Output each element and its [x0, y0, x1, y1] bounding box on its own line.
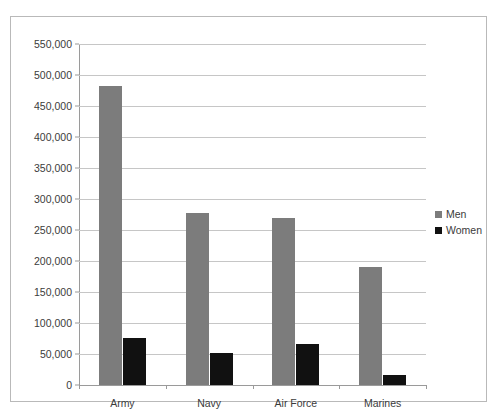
x-axis-label-navy: Navy: [197, 397, 221, 409]
y-axis-tick-label: 300,000: [34, 193, 72, 205]
legend-item-women[interactable]: Women: [435, 222, 482, 238]
x-axis-tick-mark: [166, 385, 167, 389]
y-axis-tick-label: 400,000: [34, 131, 72, 143]
y-axis-tick-label: 50,000: [40, 348, 72, 360]
y-axis-tick-label: 500,000: [34, 69, 72, 81]
x-axis-label-air-force: Air Force: [275, 397, 318, 409]
bar-army-men: [99, 86, 122, 385]
bar-group: [339, 44, 426, 385]
y-axis-tick-label: 150,000: [34, 286, 72, 298]
y-axis-tick-label: 550,000: [34, 38, 72, 50]
bar-group: [253, 44, 340, 385]
y-axis-tick-label: 250,000: [34, 224, 72, 236]
bar-navy-women: [210, 353, 233, 385]
legend-label: Women: [446, 224, 482, 236]
y-axis-tick-label: 350,000: [34, 162, 72, 174]
bar-group: [166, 44, 253, 385]
y-axis-tick-label: 100,000: [34, 317, 72, 329]
chart-frame: 050,000100,000150,000200,000250,000300,0…: [10, 16, 487, 402]
plot-area: 050,000100,000150,000200,000250,000300,0…: [79, 44, 426, 385]
x-axis-label-army: Army: [110, 397, 135, 409]
bar-army-women: [123, 338, 146, 385]
legend-swatch-men-icon: [435, 211, 442, 218]
legend-item-men[interactable]: Men: [435, 206, 482, 222]
x-axis-tick-mark: [339, 385, 340, 389]
bar-navy-men: [186, 213, 209, 385]
bar-air-force-men: [272, 218, 295, 385]
legend: MenWomen: [435, 206, 482, 238]
bar-group: [79, 44, 166, 385]
x-axis-tick-mark: [426, 385, 427, 389]
x-axis-label-marines: Marines: [364, 397, 401, 409]
bar-marines-men: [359, 267, 382, 385]
bar-air-force-women: [296, 344, 319, 385]
bar-marines-women: [383, 375, 406, 385]
x-axis-tick-mark: [79, 385, 80, 389]
y-axis-tick-label: 200,000: [34, 255, 72, 267]
y-axis-tick-label: 450,000: [34, 100, 72, 112]
x-axis-tick-mark: [253, 385, 254, 389]
legend-label: Men: [446, 208, 466, 220]
y-axis-tick-label: 0: [66, 379, 72, 391]
legend-swatch-women-icon: [435, 227, 442, 234]
